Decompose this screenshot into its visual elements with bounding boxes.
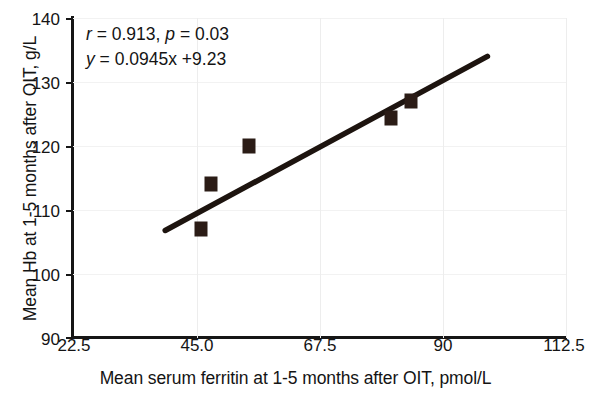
data-point-marker (204, 177, 217, 192)
r-value: = 0.913, (92, 24, 165, 44)
annotation-line-correlation: r = 0.913, p = 0.03 (86, 22, 229, 47)
data-point-marker (194, 222, 207, 237)
y-tick-label-140: 140 (14, 11, 60, 28)
p-symbol: p (165, 24, 175, 44)
x-axis-title: Mean serum ferritin at 1-5 months after … (0, 368, 591, 389)
x-tick-label-45-0: 45.0 (157, 337, 237, 354)
scatter-plot-figure: Mean Hb at 1-5 months after OIT, g/L 140… (0, 0, 591, 396)
x-tick-label-112-5: 112.5 (524, 337, 591, 354)
x-tick-label-90: 90 (403, 337, 483, 354)
x-tick-label-67-5: 67.5 (280, 337, 360, 354)
y-axis-title: Mean Hb at 1-5 months after OIT, g/L (20, 9, 41, 349)
data-point-marker (385, 111, 398, 126)
p-value: = 0.03 (175, 24, 229, 44)
statistics-annotation: r = 0.913, p = 0.03 y = 0.0945x +9.23 (86, 22, 229, 72)
y-tick-label-100: 100 (14, 267, 60, 284)
data-point-marker (242, 139, 255, 154)
y-symbol: y (86, 49, 95, 69)
annotation-line-equation: y = 0.0945x +9.23 (86, 47, 229, 72)
y-tick-label-120: 120 (14, 139, 60, 156)
y-tick-label-130: 130 (14, 75, 60, 92)
data-point-marker (404, 94, 417, 109)
equation-value: = 0.0945x +9.23 (95, 49, 226, 69)
x-tick-label-22-5: 22.5 (34, 337, 114, 354)
y-tick-label-110: 110 (14, 203, 60, 220)
